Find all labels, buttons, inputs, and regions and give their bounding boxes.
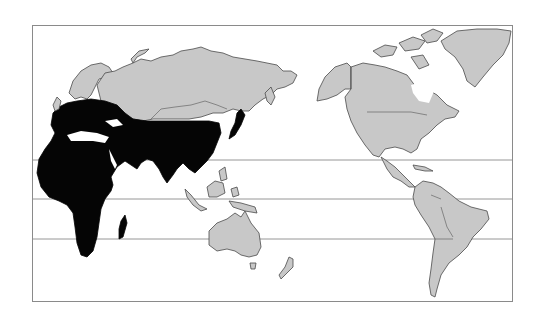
north-america xyxy=(345,63,459,157)
madagascar xyxy=(119,215,127,239)
new-zealand xyxy=(279,257,293,279)
tasmania xyxy=(250,263,256,269)
caribbean-islands xyxy=(413,165,433,171)
australia xyxy=(209,211,261,257)
greenland xyxy=(441,29,511,87)
canadian-arctic-islands xyxy=(373,29,443,69)
southeast-asia-islands xyxy=(185,167,257,213)
japan xyxy=(229,109,245,139)
russia-northern-asia xyxy=(97,47,297,121)
world-map xyxy=(33,26,513,302)
central-america xyxy=(381,157,415,187)
map-frame xyxy=(32,25,513,302)
highlighted-region-eurasia-africa xyxy=(37,99,221,257)
